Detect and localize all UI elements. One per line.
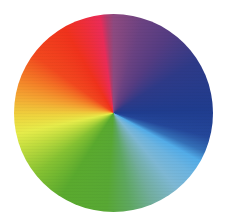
color-wheel: Conic color wheel xyxy=(14,14,213,212)
color-wheel-description: Conic color wheel xyxy=(14,14,15,15)
